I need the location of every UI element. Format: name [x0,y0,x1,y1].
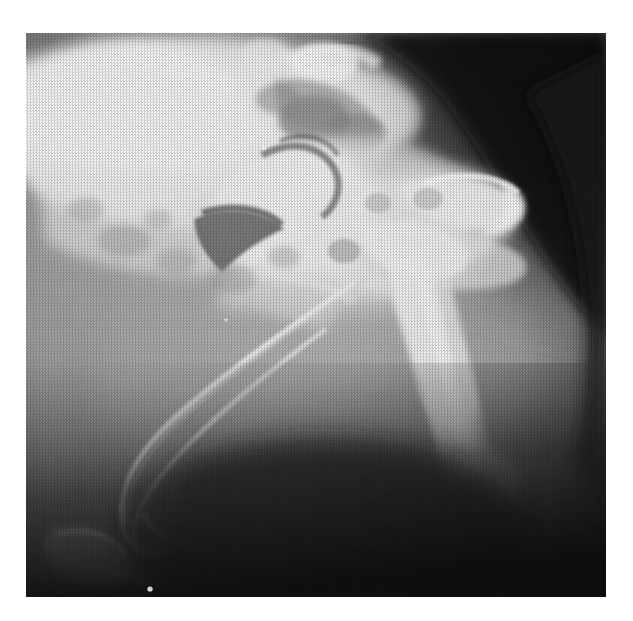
dark-band-bottom [26,363,606,597]
radiograph-image [26,33,606,597]
film-marker-dot [147,586,152,591]
film-speck-dot [262,146,266,150]
film-speck-dot-2 [224,318,228,322]
radiograph-render [26,33,606,597]
page-canvas: Lateral radiograph of the pelvis and hip… [0,0,633,621]
